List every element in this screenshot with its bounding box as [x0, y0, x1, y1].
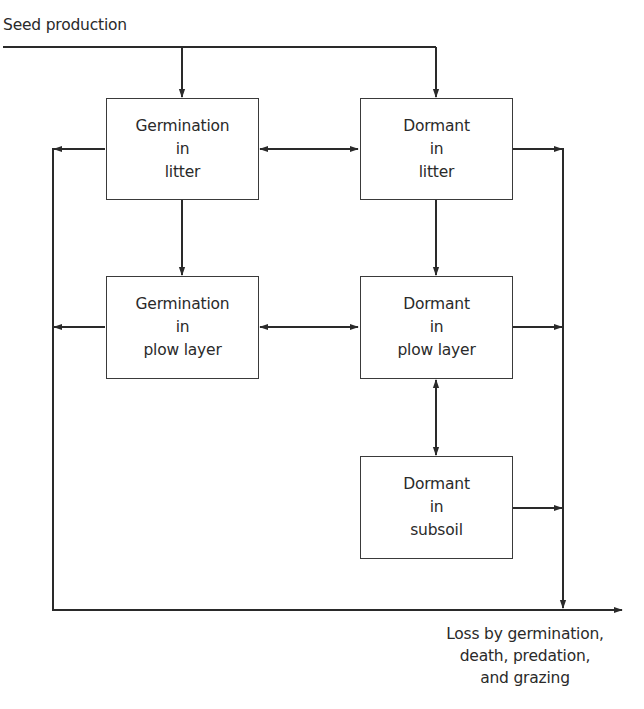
flow-connectors [0, 0, 644, 709]
box-line: in [430, 138, 444, 161]
box-line: plow layer [143, 339, 221, 362]
box-line: Dormant [403, 293, 470, 316]
box-germination-litter: Germination in litter [106, 98, 259, 200]
loss-label: Loss by germination, death, predation, a… [420, 623, 630, 689]
box-line: Germination [136, 115, 230, 138]
box-line: Dormant [403, 115, 470, 138]
box-dormant-litter: Dormant in litter [360, 98, 513, 200]
box-dormant-plow-layer: Dormant in plow layer [360, 276, 513, 379]
box-line: litter [165, 161, 200, 184]
box-line: in [176, 316, 190, 339]
box-line: in [430, 316, 444, 339]
loss-label-line: and grazing [420, 667, 630, 689]
box-line: Dormant [403, 473, 470, 496]
box-line: litter [419, 161, 454, 184]
seed-production-label: Seed production [3, 14, 127, 36]
box-line: in [430, 496, 444, 519]
loss-label-line: death, predation, [420, 645, 630, 667]
box-dormant-subsoil: Dormant in subsoil [360, 456, 513, 559]
box-line: in [176, 138, 190, 161]
box-line: plow layer [397, 339, 475, 362]
box-line: Germination [136, 293, 230, 316]
box-germination-plow-layer: Germination in plow layer [106, 276, 259, 379]
loss-label-line: Loss by germination, [420, 623, 630, 645]
box-line: subsoil [410, 519, 463, 542]
